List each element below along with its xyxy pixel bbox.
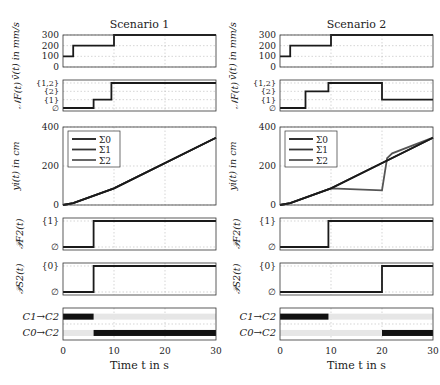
y-tick-label: {1,2} — [253, 79, 276, 88]
series-line — [280, 83, 433, 108]
y-tick-label: C0→C2 — [23, 327, 59, 338]
x-tick-label: 0 — [60, 346, 66, 356]
y-tick-label: 200 — [42, 41, 59, 51]
y-tick-label: ∅ — [52, 104, 59, 113]
x-tick-label: 0 — [277, 346, 283, 356]
legend-label: Σ0 — [316, 135, 328, 145]
axes-frame — [63, 218, 216, 250]
y-tick-label: 0 — [270, 62, 276, 72]
y-axis-label: 𝒩F(t) — [12, 82, 23, 109]
axes-frame — [280, 80, 433, 111]
y-tick-label: 400 — [42, 122, 59, 132]
transition-active-bar — [63, 314, 94, 320]
column-title: Scenario 2 — [327, 18, 387, 31]
y-tick-label: ∅ — [268, 287, 276, 297]
y-tick-label: {1} — [44, 96, 59, 105]
y-axis-label: 𝒫S2(t) — [231, 263, 242, 294]
y-axis-label: 𝒫F2(t) — [14, 218, 25, 249]
y-tick-label: 0 — [53, 62, 59, 72]
y-tick-label: ∅ — [51, 242, 59, 252]
axes-nf: ∅{1}{2}{1,2}𝒩F(t) — [12, 79, 216, 113]
y-tick-label: {0} — [259, 261, 276, 271]
x-tick-label: 10 — [108, 346, 120, 356]
y-tick-label: 200 — [259, 161, 276, 171]
axes-frame — [63, 35, 216, 67]
y-tick-label: {2} — [261, 87, 276, 96]
legend: Σ0Σ1Σ2 — [285, 131, 337, 167]
transition-active-bar — [382, 330, 433, 336]
legend-label: Σ2 — [99, 156, 111, 166]
legend-label: Σ1 — [316, 145, 328, 155]
x-tick-label: 30 — [427, 346, 439, 356]
y-tick-label: 200 — [42, 161, 59, 171]
y-tick-label: 200 — [259, 41, 276, 51]
y-axis-label: v̄(t) in mm/s — [227, 22, 238, 80]
axes-frame — [280, 35, 433, 67]
series-line — [63, 83, 216, 108]
legend: Σ0Σ1Σ2 — [68, 131, 120, 167]
series-line — [280, 266, 433, 292]
axes-frame — [63, 263, 216, 295]
column-title: Scenario 1 — [110, 18, 170, 31]
y-tick-label: C0→C2 — [240, 327, 276, 338]
y-axis-label: 𝒫S2(t) — [14, 263, 25, 294]
x-axis-label: Time t in s — [327, 359, 386, 372]
series-line — [63, 266, 216, 292]
y-axis-label: 𝒩F(t) — [229, 82, 240, 109]
y-tick-label: 400 — [259, 122, 276, 132]
y-tick-label: ∅ — [51, 287, 59, 297]
axes-frame — [280, 263, 433, 295]
y-tick-label: 100 — [259, 51, 276, 61]
y-axis-label: yi(t) in cm — [10, 141, 21, 191]
y-tick-label: 0 — [270, 200, 276, 210]
transition-active-bar — [94, 330, 216, 336]
y-axis-label: 𝒫F2(t) — [231, 218, 242, 249]
axes-nf: ∅{1}{2}{1,2}𝒩F(t) — [229, 79, 433, 113]
x-tick-label: 20 — [376, 346, 388, 356]
y-tick-label: 300 — [259, 30, 276, 40]
y-tick-label: {1} — [259, 216, 276, 226]
y-tick-label: {1} — [42, 216, 59, 226]
y-axis-label: yi(t) in cm — [227, 141, 238, 191]
y-tick-label: {0} — [42, 261, 59, 271]
x-axis-label: Time t in s — [110, 359, 169, 372]
y-tick-label: C1→C2 — [23, 311, 59, 322]
axes-frame — [280, 218, 433, 250]
x-tick-label: 10 — [325, 346, 337, 356]
y-tick-label: ∅ — [269, 104, 276, 113]
y-tick-label: {1} — [261, 96, 276, 105]
y-tick-label: C1→C2 — [240, 311, 276, 322]
legend-label: Σ1 — [99, 145, 111, 155]
legend-label: Σ0 — [99, 135, 111, 145]
axes-frame — [63, 80, 216, 111]
y-tick-label: 100 — [42, 51, 59, 61]
y-tick-label: 300 — [42, 30, 59, 40]
y-axis-label: v̄(t) in mm/s — [10, 22, 21, 80]
figure: Scenario 10100200300v̄(t) in mm/s∅{1}{2}… — [0, 0, 440, 385]
legend-label: Σ2 — [316, 156, 328, 166]
x-tick-label: 20 — [159, 346, 171, 356]
y-tick-label: {1,2} — [36, 79, 59, 88]
x-tick-label: 30 — [210, 346, 222, 356]
series-line — [280, 221, 433, 247]
y-tick-label: {2} — [44, 87, 59, 96]
series-line — [63, 221, 216, 247]
y-tick-label: 0 — [53, 200, 59, 210]
y-tick-label: ∅ — [268, 242, 276, 252]
transition-active-bar — [280, 314, 328, 320]
